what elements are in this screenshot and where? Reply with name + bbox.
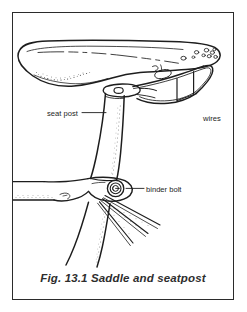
lug-cutout: [60, 193, 70, 199]
saddle-rivets: [181, 48, 218, 60]
saddle-shell: [18, 40, 220, 86]
callout-label-seat-post: seat post: [47, 109, 78, 118]
callout-label-binder-bolt: binder bolt: [146, 185, 181, 194]
saddle-texture: [36, 72, 90, 80]
binder-bolt: [107, 180, 123, 196]
seat-post: [91, 94, 125, 181]
figure-page: seat post binder bolt wires Fig. 13.1 Sa…: [0, 0, 247, 312]
callout-label-wires: wires: [203, 114, 221, 123]
saddle-seatpost-illustration: [0, 0, 247, 312]
saddle-clamp: [103, 84, 156, 98]
top-tube-shading: [16, 195, 53, 198]
seat-tube: [66, 202, 110, 267]
figure-caption: Fig. 13.1 Saddle and seatpost: [12, 272, 234, 284]
